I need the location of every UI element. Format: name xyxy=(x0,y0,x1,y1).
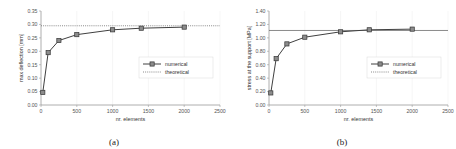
x-tick-label: 2000 xyxy=(406,108,418,114)
legend-label-numerical: numerical xyxy=(393,61,416,67)
data-point-marker xyxy=(139,26,143,30)
x-tick-label: 0 xyxy=(268,108,271,114)
data-point-marker xyxy=(269,91,273,95)
x-tick-label: 1500 xyxy=(143,108,155,114)
y-axis-title: max deflection [mm] xyxy=(18,33,24,82)
y-tick-label: 1.40 xyxy=(255,8,265,14)
x-axis-title: nr. elements xyxy=(116,116,146,122)
x-tick-label: 1500 xyxy=(371,108,383,114)
y-tick-label: 1.20 xyxy=(255,21,265,27)
data-point-marker xyxy=(410,27,414,31)
data-point-marker xyxy=(46,51,50,55)
x-axis-title: nr. elements xyxy=(344,116,374,122)
chart-a-canvas: 0.000.050.100.150.200.250.300.3505001000… xyxy=(0,0,228,132)
figure-two-panel-convergence: 0.000.050.100.150.200.250.300.3505001000… xyxy=(0,0,456,149)
y-tick-label: 0.60 xyxy=(255,62,265,68)
y-tick-label: 0.40 xyxy=(255,75,265,81)
panel-b: 0.000.200.400.600.801.001.201.4005001000… xyxy=(228,0,456,149)
data-point-marker xyxy=(367,28,371,32)
legend-numerical-marker xyxy=(150,62,154,66)
y-tick-label: 0.30 xyxy=(27,21,37,27)
data-point-marker xyxy=(182,25,186,29)
data-point-marker xyxy=(303,35,307,39)
x-tick-label: 2500 xyxy=(214,108,226,114)
x-tick-label: 500 xyxy=(300,108,309,114)
panel-a-caption: (a) xyxy=(0,137,228,147)
panel-b-caption: (b) xyxy=(228,137,456,147)
y-tick-label: 0.00 xyxy=(255,102,265,108)
y-tick-label: 0.20 xyxy=(255,88,265,94)
legend-numerical-marker xyxy=(378,62,382,66)
y-tick-label: 0.35 xyxy=(27,8,37,14)
data-point-marker xyxy=(111,28,115,32)
x-tick-label: 1000 xyxy=(335,108,347,114)
legend-label-numerical: numerical xyxy=(165,61,188,67)
data-point-marker xyxy=(285,42,289,46)
x-tick-label: 2000 xyxy=(178,108,190,114)
y-tick-label: 1.00 xyxy=(255,35,265,41)
legend-label-theoretical: theoretical xyxy=(165,69,189,75)
x-tick-label: 1000 xyxy=(107,108,119,114)
data-point-marker xyxy=(41,90,45,94)
x-tick-label: 2500 xyxy=(442,108,454,114)
y-axis-title: stress at the support [MPa] xyxy=(246,25,252,90)
y-tick-label: 0.15 xyxy=(27,62,37,68)
y-tick-label: 0.00 xyxy=(27,102,37,108)
chart-b-canvas: 0.000.200.400.600.801.001.201.4005001000… xyxy=(228,0,456,132)
panel-a: 0.000.050.100.150.200.250.300.3505001000… xyxy=(0,0,228,149)
legend-label-theoretical: theoretical xyxy=(393,69,417,75)
x-tick-label: 0 xyxy=(40,108,43,114)
y-tick-label: 0.05 xyxy=(27,88,37,94)
data-point-marker xyxy=(274,57,278,61)
y-tick-label: 0.80 xyxy=(255,48,265,54)
y-tick-label: 0.20 xyxy=(27,48,37,54)
y-tick-label: 0.25 xyxy=(27,35,37,41)
data-point-marker xyxy=(57,38,61,42)
data-point-marker xyxy=(75,33,79,37)
y-tick-label: 0.10 xyxy=(27,75,37,81)
data-point-marker xyxy=(339,30,343,34)
x-tick-label: 500 xyxy=(72,108,81,114)
